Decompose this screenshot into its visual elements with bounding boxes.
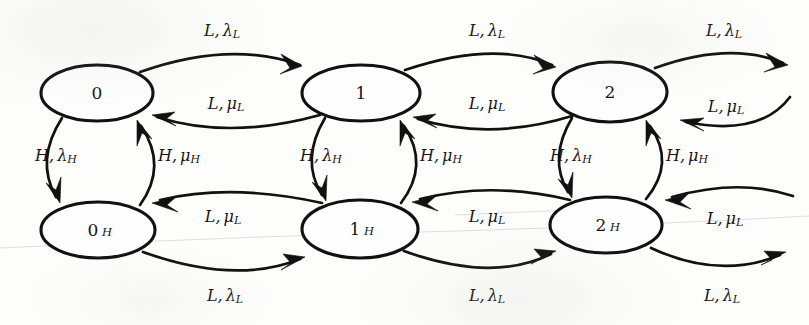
- edge-1H-to-0H: [152, 192, 322, 212]
- edge-1H-to-1: [400, 120, 416, 203]
- edge-label-mid-2: L,μL: [468, 94, 505, 115]
- edge-label-v-2-up: H,μH: [665, 146, 708, 167]
- edge-label-v-1-up: H,μH: [419, 146, 462, 167]
- node-state-0H-subscript: H: [101, 225, 113, 239]
- edge-2H-to-2: [646, 120, 662, 199]
- node-state-2-label: 2: [605, 82, 616, 102]
- edge-label-v-2-down: H,λH: [549, 146, 592, 167]
- edge-label-bmid-3: L,μL: [706, 209, 743, 230]
- node-state-1-label: 1: [356, 83, 367, 103]
- node-state-1H-label: 1: [350, 219, 361, 239]
- edge-label-bot-1: L,λL: [206, 286, 243, 307]
- edge-0H-to-1H: [143, 252, 305, 270]
- edge-label-top-2: L,λL: [468, 21, 505, 42]
- edge-label-v-1-down: H,λH: [299, 146, 342, 167]
- edge-label-top-3: L,λL: [705, 21, 742, 42]
- edge-label-bot-2: L,λL: [468, 286, 505, 307]
- edge-2-to-next: [655, 53, 788, 72]
- state-diagram-svg: 0 1 2 0 H 1 H 2 H L,λL: [0, 0, 809, 325]
- edge-0H-to-0: [137, 120, 154, 205]
- node-state-0-label: 0: [92, 83, 103, 103]
- edge-label-v-0-down: H,λH: [34, 146, 77, 167]
- edge-label-top-1: L,λL: [203, 21, 240, 42]
- edge-label-v-0-up: H,μH: [157, 146, 200, 167]
- node-state-0H[interactable]: 0 H: [41, 202, 155, 258]
- node-state-0[interactable]: 0: [41, 65, 153, 121]
- node-state-2H-label: 2: [596, 215, 607, 235]
- node-state-2[interactable]: 2: [553, 62, 667, 122]
- edge-1-to-0: [152, 112, 320, 128]
- node-state-1H[interactable]: 1 H: [302, 200, 418, 258]
- node-state-1[interactable]: 1: [302, 65, 420, 121]
- edge-0-to-1: [140, 54, 302, 74]
- edge-2H-to-next: [651, 248, 786, 266]
- edge-labels: L,λL L,λL L,λL L,μL L,μL L,μL H,λH H,μH: [34, 21, 744, 307]
- diagram-canvas: 0 1 2 0 H 1 H 2 H L,λL: [0, 0, 809, 325]
- edge-label-mid-1: L,μL: [207, 94, 244, 115]
- edge-label-bot-3: L,λL: [703, 286, 740, 307]
- edge-label-bmid-1: L,μL: [204, 207, 241, 228]
- node-state-0H-label: 0: [88, 220, 99, 240]
- edge-label-bmid-2: L,μL: [468, 207, 505, 228]
- edge-nextH-to-2H: [665, 187, 793, 209]
- node-state-2H[interactable]: 2 H: [550, 197, 662, 253]
- edge-2-to-1: [413, 114, 572, 129]
- edge-label-mid-3: L,μL: [707, 97, 744, 118]
- edge-1H-to-2H: [404, 249, 556, 268]
- node-state-2H-subscript: H: [609, 220, 621, 234]
- edge-1-to-2: [405, 54, 556, 74]
- node-state-1H-subscript: H: [363, 224, 375, 238]
